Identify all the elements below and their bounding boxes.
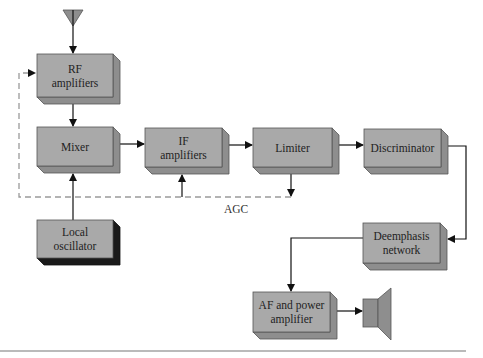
speaker-icon [363, 288, 391, 340]
block-label: Deemphasis [373, 230, 430, 243]
agc-label: AGC [224, 203, 249, 215]
block-af-amp: AF and poweramplifier [253, 292, 337, 339]
block-label: oscillator [54, 240, 97, 252]
block-label: amplifier [270, 313, 312, 326]
block-label: Discriminator [371, 142, 435, 154]
wire-discriminator-to-deemphasis [446, 146, 466, 239]
block-if: IFamplifiers [145, 128, 229, 174]
block-label: amplifiers [160, 149, 207, 162]
block-deemphasis: Deemphasisnetwork [363, 223, 447, 270]
block-face [363, 223, 440, 263]
block-label: AF and power [259, 299, 325, 312]
block-rf: RFamplifiers [37, 54, 120, 104]
antenna-icon [63, 10, 83, 53]
block-mixer: Mixer [37, 127, 120, 173]
block-face [253, 292, 330, 332]
block-label: network [383, 244, 421, 256]
block-local-oscillator: Localoscillator [37, 220, 120, 265]
block-label: Limiter [275, 142, 310, 154]
block-limiter: Limiter [253, 128, 339, 174]
wire-deemphasis-to-af [291, 238, 363, 291]
block-label: amplifiers [52, 77, 99, 90]
block-label: Local [62, 226, 88, 238]
receiver-block-diagram: AGC RFamplifiersMixerIFamplifiersLimiter… [0, 0, 483, 358]
block-discriminator: Discriminator [364, 129, 448, 174]
block-label: Mixer [61, 141, 89, 153]
block-label: RF [68, 63, 82, 75]
block-face [37, 54, 113, 97]
block-label: IF [178, 135, 188, 147]
